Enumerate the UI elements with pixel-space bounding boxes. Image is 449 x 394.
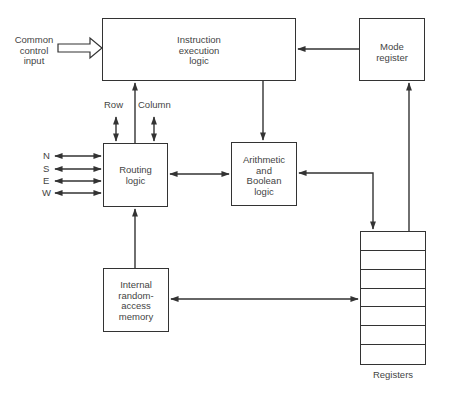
arithmetic-registers-arrow [299,173,373,229]
register-row [361,307,425,326]
internal-ram-block: Internal random- access memory [103,268,169,332]
common-control-input-label: Common control input [12,35,56,67]
mode-register-label: Mode register [376,42,408,63]
register-row [361,270,425,289]
register-row [361,345,425,364]
internal-ram-label: Internal random- access memory [118,280,153,322]
mode-register-block: Mode register [359,18,425,81]
row-label: Row [104,100,123,111]
column-label: Column [138,100,171,111]
direction-e-label: E [43,176,49,187]
arithmetic-boolean-logic-label: Arithmetic and Boolean logic [243,155,285,197]
register-row [361,289,425,308]
instruction-execution-logic-label: Instruction execution logic [177,35,221,67]
register-row [361,232,425,251]
common-control-input-arrow [58,38,102,58]
registers-block [360,231,426,365]
registers-label: Registers [360,370,426,381]
instruction-execution-logic-block: Instruction execution logic [102,18,296,81]
register-row [361,326,425,345]
direction-n-label: N [43,151,50,162]
register-row [361,251,425,270]
routing-logic-label: Routing logic [119,165,152,186]
arithmetic-boolean-logic-block: Arithmetic and Boolean logic [231,142,297,206]
routing-logic-block: Routing logic [103,143,168,207]
direction-s-label: S [43,164,49,175]
direction-w-label: W [42,188,51,199]
